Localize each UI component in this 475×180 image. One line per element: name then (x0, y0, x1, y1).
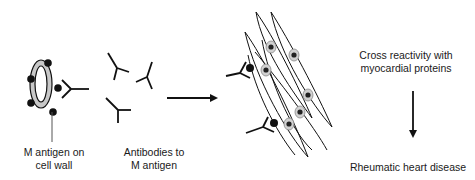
myocardial-cells-group (245, 12, 332, 157)
rheumatic-fever-pathogenesis-diagram: M antigen on cell wall Antibodies to M a… (0, 0, 475, 180)
nucleus-icon (284, 118, 294, 130)
myocardial-cell-icon (245, 32, 308, 157)
bacterium-with-m-antigen-icon (27, 59, 89, 142)
antibodies-label-line2: M antigen (104, 159, 204, 172)
y-shaped-antibody-icon (136, 62, 152, 89)
antibody-bound-to-cell-icon (226, 62, 254, 78)
free-antibodies-group (106, 53, 152, 123)
nucleus-icon (266, 41, 276, 53)
nucleus-icon (289, 49, 299, 61)
bacterium-label: M antigen on cell wall (4, 146, 104, 172)
antibody-bound-to-cell-icon (246, 117, 278, 133)
antibodies-label: Antibodies to M antigen (104, 146, 204, 172)
outcome-label: Rheumatic heart disease (343, 161, 473, 174)
y-shaped-antibody-icon (106, 98, 131, 123)
bacterium-label-line1: M antigen on (4, 146, 104, 159)
y-shaped-antibody-icon (108, 53, 129, 80)
antibodies-label-line1: Antibodies to (104, 146, 204, 159)
nucleus-icon (303, 89, 313, 101)
cross-reactivity-label-line1: Cross reactivity with (350, 49, 462, 62)
myocardial-cell-icon (248, 55, 295, 155)
nucleus-icon (295, 106, 305, 118)
bacterium-label-line2: cell wall (4, 159, 104, 172)
rheumatic-heart-disease-label: Rheumatic heart disease (343, 161, 473, 174)
cross-reactivity-label-line2: myocardial proteins (350, 62, 462, 75)
nucleus-icon (261, 64, 271, 76)
cross-reactivity-label: Cross reactivity with myocardial protein… (350, 49, 462, 75)
antibody-bound-to-bacterium-icon (62, 80, 89, 98)
